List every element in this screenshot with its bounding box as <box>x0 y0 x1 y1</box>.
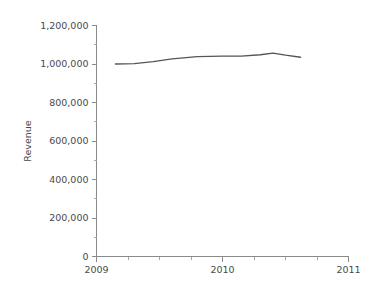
y-axis-tick-label: 600,000 <box>49 135 88 146</box>
x-axis-tick-label: 2009 <box>84 264 108 275</box>
y-axis-tick-label: 200,000 <box>49 212 88 223</box>
y-axis-tick-label: 400,000 <box>49 174 88 185</box>
x-axis-tick-label: 2011 <box>336 264 360 275</box>
revenue-line-chart: 0200,000400,000600,000800,0001,000,0001,… <box>0 0 383 298</box>
chart-canvas: 0200,000400,000600,000800,0001,000,0001,… <box>0 0 383 298</box>
chart-background <box>0 0 383 298</box>
y-axis-tick-label: 800,000 <box>49 97 88 108</box>
y-axis-tick-label: 0 <box>82 251 88 262</box>
y-axis-tick-label: 1,200,000 <box>40 20 88 31</box>
x-axis-tick-label: 2010 <box>210 264 234 275</box>
y-axis-tick-label: 1,000,000 <box>40 58 88 69</box>
y-axis-title: Revenue <box>22 120 33 162</box>
